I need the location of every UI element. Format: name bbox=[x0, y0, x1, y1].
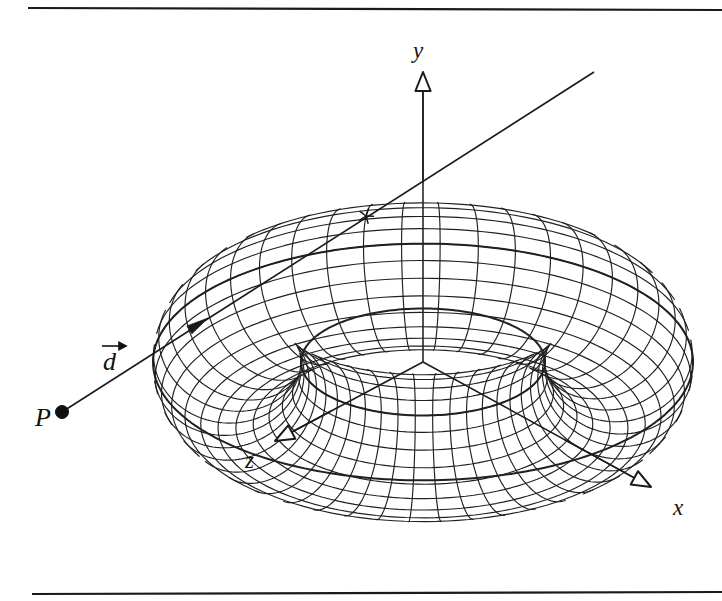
torus-mesh-line bbox=[218, 338, 628, 518]
figure-page: y x z P d bbox=[0, 0, 722, 601]
ray-direction-label-d: d bbox=[103, 347, 117, 376]
torus-mesh-line bbox=[516, 267, 583, 365]
torus-mesh-line bbox=[312, 353, 537, 375]
top-rule bbox=[28, 8, 722, 10]
axis-label-y: y bbox=[411, 38, 424, 63]
vector-arrow-tip bbox=[119, 342, 126, 349]
bottom-rule bbox=[32, 592, 722, 594]
axis-arrowhead-x bbox=[631, 471, 651, 487]
ray-group bbox=[56, 72, 595, 419]
torus-mesh-line bbox=[433, 244, 440, 350]
torus-mesh-line bbox=[538, 343, 666, 459]
torus-mesh-line bbox=[169, 285, 182, 322]
torus-mesh-line bbox=[408, 374, 415, 522]
ray-torus-figure: y x z P d bbox=[0, 0, 722, 601]
torus-mesh-line bbox=[550, 320, 675, 399]
axis-label-x: x bbox=[672, 495, 684, 520]
torus-mesh-line bbox=[541, 290, 638, 379]
torus-mesh-line bbox=[402, 244, 410, 350]
intersection-star-arm bbox=[360, 211, 366, 216]
torus-mesh-line bbox=[185, 306, 297, 390]
torus-mesh-line bbox=[433, 374, 441, 522]
axis-arrowhead-y bbox=[415, 72, 430, 91]
ray-origin-dot bbox=[56, 406, 69, 419]
ray-origin-label-p: P bbox=[34, 403, 51, 432]
axis-label-z: z bbox=[244, 448, 254, 473]
